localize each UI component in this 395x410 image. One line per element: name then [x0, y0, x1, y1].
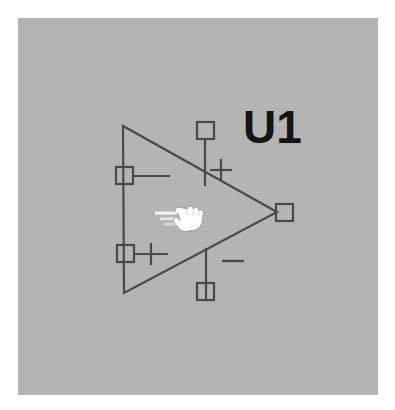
symbol-editor-window: U1 [0, 0, 395, 410]
pin-left-lower-handle[interactable] [117, 245, 134, 262]
pin-output-group[interactable] [276, 204, 293, 221]
opamp-symbol-graphic[interactable] [18, 18, 378, 395]
pin-output-handle[interactable] [276, 204, 293, 221]
pin-top-plus-icon [210, 159, 232, 181]
schematic-canvas[interactable]: U1 [18, 18, 378, 395]
pin-left-upper-handle[interactable] [116, 167, 133, 184]
pin-bottom-group[interactable] [197, 248, 244, 300]
reference-designator-label[interactable]: U1 [243, 104, 302, 150]
pin-top-handle[interactable] [197, 122, 214, 139]
